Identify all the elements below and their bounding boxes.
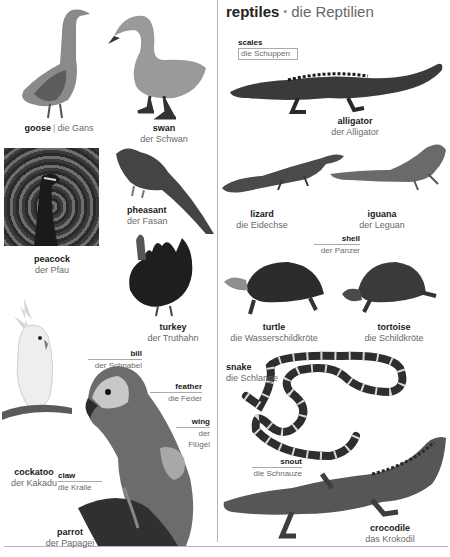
label-tortoise: tortoise die Schildkröte <box>356 322 432 344</box>
peacock-head-overlay <box>30 170 70 246</box>
callout-shell: shell der Panzer <box>314 234 360 256</box>
callout-feather: feather die Feder <box>150 382 202 404</box>
label-turkey: turkey der Truthahn <box>138 322 208 344</box>
label-turtle: turtle die Wasserschildkröte <box>222 322 326 344</box>
label-goose: goose|die Gans <box>4 123 114 134</box>
heading-german: die Reptilien <box>291 3 374 20</box>
label-pheasant: pheasant der Fasan <box>127 205 197 227</box>
label-lizard: lizard die Eidechse <box>232 209 292 231</box>
section-heading: reptiles•die Reptilien <box>226 2 374 21</box>
iguana-image <box>330 140 448 196</box>
label-crocodile: crocodile das Krokodil <box>350 523 430 545</box>
alligator-image <box>228 56 448 116</box>
callout-claw: claw die Kralle <box>58 471 102 493</box>
label-snake: snake die Schlange <box>226 362 286 384</box>
turtle-image <box>224 258 328 318</box>
label-iguana: iguana der Leguan <box>352 209 412 231</box>
turkey-image <box>122 230 198 316</box>
tortoise-image <box>340 260 440 318</box>
label-cockatoo: cockatoo der Kakadu <box>2 467 66 489</box>
heading-bullet: • <box>279 5 291 17</box>
heading-english: reptiles <box>226 3 279 20</box>
label-swan: swan der Schwan <box>124 123 204 145</box>
swan-image <box>104 8 208 118</box>
label-parrot: parrot der Papagei <box>30 527 110 549</box>
cockatoo-image <box>2 296 72 436</box>
label-alligator: alligator der Alligator <box>310 116 400 138</box>
callout-wing: wing der Flügel <box>176 417 210 450</box>
goose-image <box>10 4 90 120</box>
label-peacock: peacock der Pfau <box>14 254 90 276</box>
callout-bill: bill der Schnabel <box>88 349 142 371</box>
